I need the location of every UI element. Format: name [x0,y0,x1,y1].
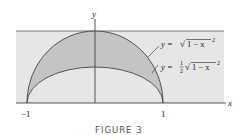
svg-text:1 − x: 1 − x [192,62,210,72]
svg-text:y =: y = [160,39,173,49]
svg-text:y =: y = [160,62,173,72]
svg-text:1: 1 [180,60,183,66]
svg-text:√: √ [180,39,185,49]
svg-text:√: √ [185,62,190,72]
svg-text:2: 2 [180,68,183,74]
svg-text:1 − x: 1 − x [187,39,205,49]
svg-text:2: 2 [217,60,220,66]
figure-caption: FIGURE 3 [95,125,143,135]
figure-canvas: y x −1 1 y = √ 1 − x 2 y = 1 2 √ 1 − x 2… [0,0,240,135]
tick-label-neg-one: −1 [21,109,31,119]
svg-text:2: 2 [212,37,215,43]
tick-label-one: 1 [161,109,166,119]
y-axis-label: y [91,9,96,19]
x-axis-label: x [227,98,232,108]
